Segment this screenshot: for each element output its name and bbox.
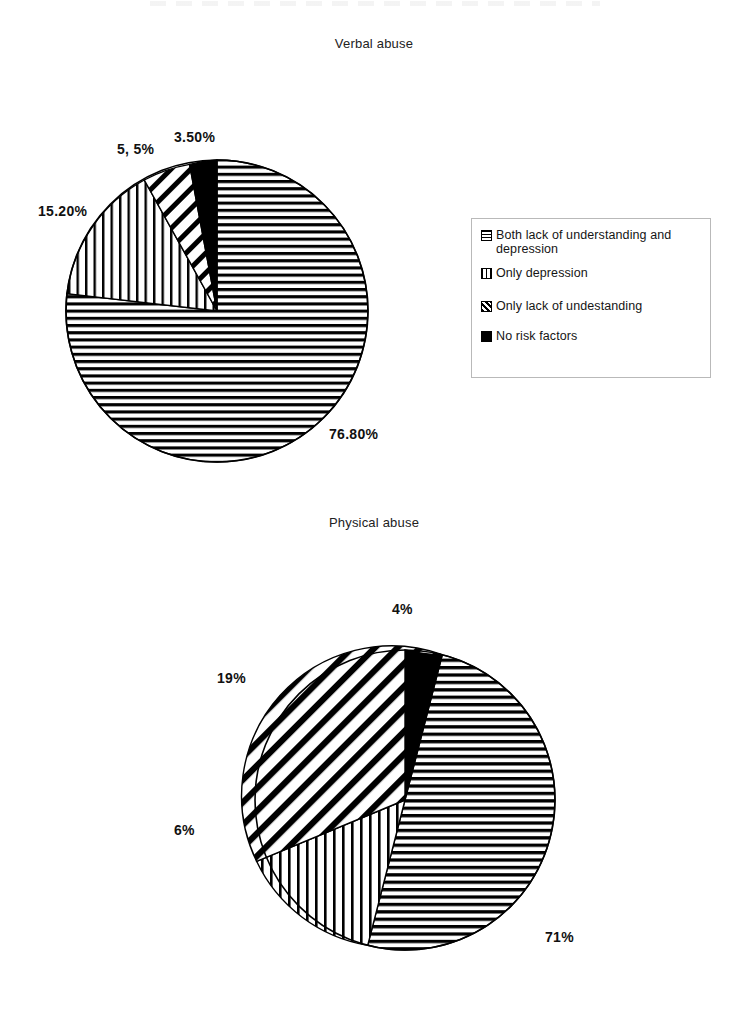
figure-canvas: Verbal abuse xyxy=(0,0,748,1014)
pie2-label-6: 6% xyxy=(174,822,195,838)
pie2-label-19: 19% xyxy=(217,670,246,686)
pie2-label-4: 4% xyxy=(392,601,413,617)
pie-chart-physical-abuse xyxy=(0,0,748,1014)
pie2-label-71: 71% xyxy=(545,929,574,945)
